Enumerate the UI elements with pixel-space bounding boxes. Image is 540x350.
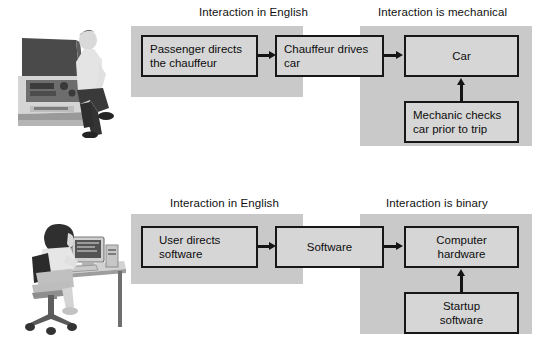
- box-chauffeur-drives-car: Chauffeur drivescar: [275, 35, 384, 77]
- box-mechanic-checks-car: Mechanic checkscar prior to trip: [404, 101, 519, 143]
- box-label: Software: [277, 240, 382, 254]
- box-startup-software: Startupsoftware: [404, 292, 519, 334]
- section-header-interaction-is-binary: Interaction is binary: [386, 197, 488, 209]
- arrow-software-to-hardware: [384, 242, 404, 251]
- box-label: Passenger directsthe chauffeur: [150, 42, 256, 70]
- arrow-mechanic-to-car: [457, 78, 466, 101]
- box-computer-hardware: Computerhardware: [404, 226, 519, 268]
- box-label: Chauffeur drivescar: [284, 42, 382, 70]
- box-label: Computerhardware: [406, 233, 517, 261]
- box-label: Startupsoftware: [406, 299, 517, 327]
- box-label: User directssoftware: [159, 233, 256, 261]
- box-label: Mechanic checkscar prior to trip: [413, 108, 517, 136]
- figure-canvas: Interaction in English Interaction is me…: [0, 0, 540, 350]
- section-header-interaction-in-english-car: Interaction in English: [199, 6, 308, 18]
- arrow-passenger-to-chauffeur: [258, 51, 276, 60]
- box-passenger-directs-chauffeur: Passenger directsthe chauffeur: [141, 35, 258, 77]
- section-header-interaction-in-english-computer: Interaction in English: [170, 197, 279, 209]
- arrow-user-to-software: [258, 242, 276, 251]
- box-label: Car: [406, 49, 517, 63]
- box-software: Software: [275, 226, 384, 268]
- arrow-startup-to-hardware: [457, 269, 466, 292]
- section-header-interaction-is-mechanical: Interaction is mechanical: [378, 6, 507, 18]
- man-leaning-on-car-with-open-hood-photo: [10, 16, 114, 138]
- woman-at-desk-using-computer-photo: [14, 205, 128, 339]
- arrow-chauffeur-to-car: [384, 51, 404, 60]
- box-car: Car: [404, 35, 519, 77]
- box-user-directs-software: User directssoftware: [141, 226, 258, 268]
